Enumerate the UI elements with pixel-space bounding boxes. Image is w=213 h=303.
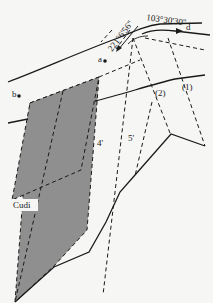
label-line-5: 5' xyxy=(128,133,135,143)
label-cudi-formation: Cudi xyxy=(13,200,31,210)
point-a-marker xyxy=(103,59,107,63)
arrow-head-d xyxy=(176,28,183,34)
point-b-marker xyxy=(17,94,21,98)
label-point-d: d xyxy=(186,22,191,32)
label-zone-2: (2) xyxy=(155,88,166,98)
label-point-a: a xyxy=(98,54,102,64)
label-point-b: b xyxy=(12,89,17,99)
dashed-top-right xyxy=(145,38,205,50)
geologic-cross-section-diagram: a b 221°6'56" 103°30'30" d (1) (2) 4' 5'… xyxy=(0,0,213,303)
dashed-line-2 xyxy=(133,38,170,133)
label-line-4: 4' xyxy=(97,138,104,148)
dashed-line-4 xyxy=(103,38,133,295)
label-zone-1: (1) xyxy=(182,82,193,92)
dashed-line-1 xyxy=(168,38,205,146)
bend-line xyxy=(128,36,148,44)
